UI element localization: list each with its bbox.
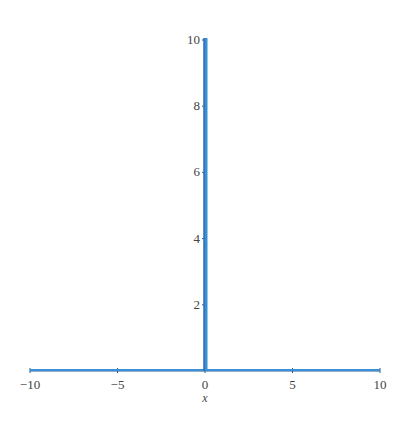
y-tick-label: 6 [194,164,201,179]
x-tick-label: −5 [111,377,125,392]
x-tick-label: −10 [20,377,40,392]
x-axis-label: x [201,391,208,405]
x-tick-label: 5 [289,377,296,392]
x-tick-label: 0 [202,377,209,392]
x-ticks: −10−50510 [20,368,387,392]
y-tick-label: 10 [187,32,200,47]
y-ticks: 246810 [187,32,205,312]
x-tick-label: 10 [374,377,387,392]
chart: −10−50510 246810 x [0,0,408,429]
y-tick-label: 2 [194,297,201,312]
y-tick-label: 4 [194,231,201,246]
series-curve [30,38,380,371]
y-tick-label: 8 [194,98,201,113]
